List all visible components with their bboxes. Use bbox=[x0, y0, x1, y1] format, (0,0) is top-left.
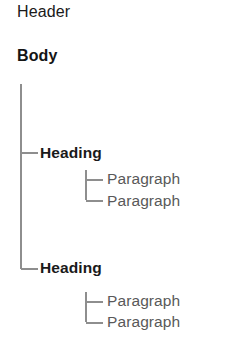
heading-label: Heading bbox=[40, 259, 102, 277]
tree-connector-elbow-paragraph-1b bbox=[86, 200, 103, 202]
paragraph-label: Paragraph bbox=[107, 313, 180, 331]
body-root-label: Body bbox=[17, 47, 57, 65]
document-outline-tree: Header Body Heading Paragraph Paragraph … bbox=[0, 0, 235, 346]
paragraph-label: Paragraph bbox=[107, 292, 180, 310]
tree-trunk-line bbox=[20, 84, 22, 269]
tree-connector-elbow-paragraph-2b bbox=[86, 322, 103, 324]
tree-connector-tee-heading-1 bbox=[21, 152, 38, 154]
tree-connector-elbow-heading-2 bbox=[21, 268, 38, 270]
tree-subtrunk-line-2 bbox=[85, 292, 87, 322]
paragraph-label: Paragraph bbox=[107, 170, 180, 188]
paragraph-label: Paragraph bbox=[107, 192, 180, 210]
heading-label: Heading bbox=[40, 144, 102, 162]
header-label: Header bbox=[17, 3, 70, 21]
tree-subtrunk-line-1 bbox=[85, 170, 87, 200]
tree-connector-tee-paragraph-2a bbox=[86, 301, 103, 303]
tree-connector-tee-paragraph-1a bbox=[86, 179, 103, 181]
